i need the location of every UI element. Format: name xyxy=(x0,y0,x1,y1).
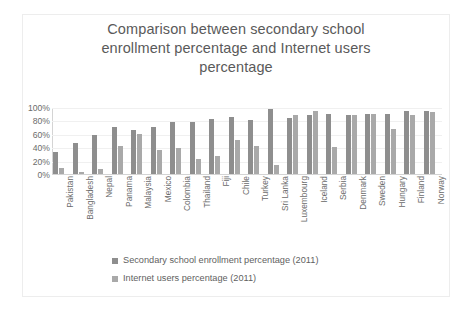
x-tick-label: Nepal xyxy=(104,176,114,198)
bar-group xyxy=(72,108,92,175)
y-tick-label: 60% xyxy=(33,130,50,140)
bar-enrollment xyxy=(385,114,390,175)
bar-internet-users xyxy=(157,150,162,175)
bar-enrollment xyxy=(170,122,175,175)
x-tick-label: Iceland xyxy=(319,176,329,203)
bar-internet-users xyxy=(391,129,396,175)
bar-internet-users xyxy=(118,146,123,175)
bar-internet-users xyxy=(332,147,337,175)
bar-enrollment xyxy=(307,115,312,175)
chart-page: Comparison between secondary school enro… xyxy=(0,0,474,313)
y-tick-label: 20% xyxy=(33,157,50,167)
bar-group xyxy=(91,108,111,175)
legend-item-internet: Internet users percentage (2011) xyxy=(112,273,382,284)
bar-enrollment xyxy=(268,109,273,175)
x-tick-label: Denmark xyxy=(358,176,368,210)
x-tick-label: Sri Lanka xyxy=(280,176,290,211)
bar-enrollment xyxy=(248,120,253,175)
bar-group xyxy=(150,108,170,175)
bar-enrollment xyxy=(53,152,58,175)
bar-group xyxy=(345,108,365,175)
bar-internet-users xyxy=(430,112,435,175)
chart-legend: Secondary school enrollment percentage (… xyxy=(112,255,382,291)
y-tick-label: 100% xyxy=(28,103,50,113)
bar-internet-users xyxy=(410,115,415,175)
bar-group xyxy=(384,108,404,175)
chart-title: Comparison between secondary school enro… xyxy=(30,20,442,77)
bar-group xyxy=(130,108,150,175)
bar-enrollment xyxy=(151,127,156,175)
x-tick-label: Malaysia xyxy=(143,176,153,209)
y-tick-label: 80% xyxy=(33,116,50,126)
bars-layer xyxy=(52,108,442,175)
bar-enrollment xyxy=(209,119,214,175)
x-tick-label: Luxembourg xyxy=(299,176,309,222)
legend-item-enrollment: Secondary school enrollment percentage (… xyxy=(112,255,382,266)
bar-internet-users xyxy=(176,148,181,175)
y-tick-label: 40% xyxy=(33,143,50,153)
bar-enrollment xyxy=(112,127,117,175)
bar-group xyxy=(189,108,209,175)
chart-title-line-3: percentage xyxy=(30,58,442,77)
y-tick-label: 0% xyxy=(38,170,50,180)
bar-enrollment xyxy=(131,130,136,175)
x-tick-label: Serbia xyxy=(338,176,348,200)
bar-group xyxy=(306,108,326,175)
chart-title-line-2: enrollment percentage and Internet users xyxy=(30,39,442,58)
bar-group xyxy=(403,108,423,175)
bar-enrollment xyxy=(404,111,409,175)
x-tick-label: Bangladesh xyxy=(85,176,95,220)
bar-enrollment xyxy=(365,114,370,175)
y-axis-tick-labels: 100%80%60%40%20%0% xyxy=(16,102,50,181)
plot-area xyxy=(52,108,442,175)
bar-internet-users xyxy=(137,134,142,175)
bar-internet-users xyxy=(352,115,357,175)
bar-group xyxy=(111,108,131,175)
bar-internet-users xyxy=(196,159,201,175)
x-tick-label: Chile xyxy=(241,176,251,195)
x-tick-label: Hungary xyxy=(397,176,407,207)
bar-group xyxy=(208,108,228,175)
bar-group xyxy=(364,108,384,175)
x-tick-label: Norway xyxy=(436,176,446,204)
bar-enrollment xyxy=(92,135,97,175)
x-axis-category-labels: PakistanBangladeshNepalPanamaMalaysiaMex… xyxy=(52,176,442,248)
x-tick-label: Sweden xyxy=(377,176,387,206)
bar-internet-users xyxy=(215,156,220,175)
bar-internet-users xyxy=(293,115,298,175)
bar-group xyxy=(267,108,287,175)
x-tick-label: Panama xyxy=(124,176,134,207)
bar-enrollment xyxy=(424,111,429,175)
bar-enrollment xyxy=(190,122,195,175)
x-tick-label: Turkey xyxy=(260,176,270,201)
bar-enrollment xyxy=(229,117,234,175)
bar-group xyxy=(423,108,443,175)
legend-label-internet: Internet users percentage (2011) xyxy=(123,273,256,284)
x-tick-label: Mexico xyxy=(163,176,173,202)
bar-group xyxy=(286,108,306,175)
x-tick-label: Pakistan xyxy=(65,176,75,208)
bar-enrollment xyxy=(346,115,351,175)
bar-internet-users xyxy=(313,111,318,175)
bar-group xyxy=(169,108,189,175)
legend-swatch-internet-icon xyxy=(112,276,118,282)
bar-group xyxy=(325,108,345,175)
bar-enrollment xyxy=(326,114,331,175)
x-tick-label: Fiji xyxy=(221,176,231,187)
bar-group xyxy=(228,108,248,175)
chart-title-line-1: Comparison between secondary school xyxy=(30,20,442,39)
bar-enrollment xyxy=(287,118,292,175)
bar-group xyxy=(52,108,72,175)
bar-internet-users xyxy=(371,114,376,175)
x-tick-label: Colombia xyxy=(182,176,192,211)
bar-internet-users xyxy=(235,140,240,175)
bar-internet-users xyxy=(254,146,259,175)
x-tick-label: Finland xyxy=(416,176,426,203)
legend-label-enrollment: Secondary school enrollment percentage (… xyxy=(123,255,318,266)
bar-group xyxy=(247,108,267,175)
legend-swatch-enrollment-icon xyxy=(112,258,118,264)
bar-enrollment xyxy=(73,143,78,175)
x-tick-label: Thailand xyxy=(202,176,212,208)
